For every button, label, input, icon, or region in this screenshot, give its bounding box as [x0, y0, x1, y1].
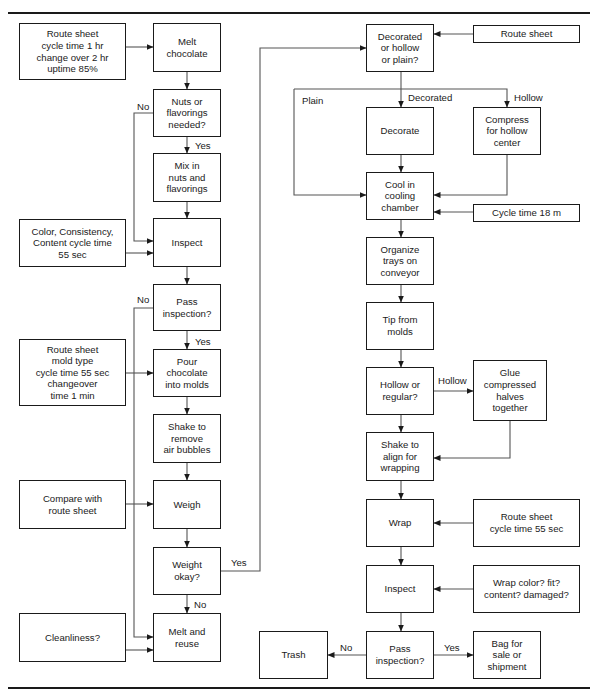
label-pass2-no: No — [340, 642, 352, 653]
step-glue-halves: Glue compressed halves together — [473, 360, 547, 421]
input-compare-route-sheet: Compare with route sheet — [19, 480, 126, 529]
step-wrap: Wrap — [366, 499, 434, 547]
step-trash: Trash — [259, 631, 328, 679]
step-pour-molds: Pour chocolate into molds — [153, 349, 221, 397]
step-shake-align: Shake to align for wrapping — [366, 432, 434, 481]
step-melt-chocolate: Melt chocolate — [153, 23, 221, 72]
label-weight-no: No — [194, 599, 206, 610]
input-route-sheet-melt: Route sheet cycle time 1 hr change over … — [19, 23, 126, 80]
step-mix-nuts: Mix in nuts and flavorings — [153, 153, 221, 202]
step-bag-shipment: Bag for sale or shipment — [473, 631, 541, 679]
label-plain: Plain — [302, 95, 323, 106]
step-decorate: Decorate — [366, 107, 434, 155]
decision-decorated-hollow-plain: Decorated or hollow or plain? — [366, 24, 434, 72]
decision-pass-inspection-1: Pass inspection? — [153, 284, 221, 331]
step-weigh: Weigh — [153, 480, 221, 529]
step-tip-molds: Tip from molds — [366, 302, 434, 350]
decision-nuts-flavorings: Nuts or flavorings needed? — [153, 89, 221, 137]
step-shake-air-bubbles: Shake to remove air bubbles — [153, 414, 221, 463]
input-route-sheet-wrap: Route sheet cycle time 55 sec — [473, 499, 580, 547]
decision-hollow-regular: Hollow or regular? — [366, 367, 434, 415]
label-pass2-yes: Yes — [444, 642, 460, 653]
label-nuts-yes: Yes — [195, 140, 211, 151]
input-route-sheet-mold: Route sheet mold type cycle time 55 sec … — [19, 339, 126, 406]
input-route-sheet-decorate: Route sheet — [473, 25, 580, 43]
label-decorated: Decorated — [408, 92, 452, 103]
step-melt-reuse: Melt and reuse — [153, 613, 221, 662]
decision-weight-okay: Weight okay? — [153, 547, 221, 595]
step-organize-trays: Organize trays on conveyor — [366, 237, 434, 285]
step-inspect-1: Inspect — [153, 218, 221, 267]
input-cycle-time-18m: Cycle time 18 m — [473, 204, 580, 222]
label-weight-yes: Yes — [231, 557, 247, 568]
label-hollow-compress: Hollow — [514, 92, 543, 103]
label-nuts-no: No — [137, 101, 149, 112]
input-cleanliness: Cleanliness? — [19, 613, 126, 662]
input-wrap-questions: Wrap color? fit? content? damaged? — [473, 565, 580, 613]
step-compress-hollow: Compress for hollow center — [473, 107, 541, 155]
step-cool-chamber: Cool in cooling chamber — [366, 172, 434, 220]
step-inspect-2: Inspect — [366, 565, 434, 613]
decision-pass-inspection-2: Pass inspection? — [366, 631, 434, 679]
label-hollow-glue: Hollow — [438, 375, 467, 386]
label-pass1-no: No — [137, 294, 149, 305]
label-pass1-yes: Yes — [195, 336, 211, 347]
input-color-consistency: Color, Consistency, Content cycle time 5… — [19, 219, 126, 267]
